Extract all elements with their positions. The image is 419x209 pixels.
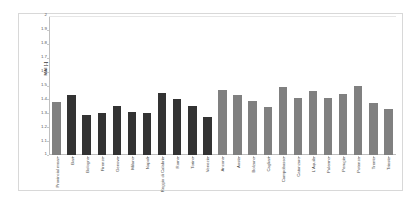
x-axis-tick-label: Napoli: [145, 157, 150, 169]
x-axis-label-slot: Firenze: [94, 157, 109, 205]
x-axis-label-slot: Perugia: [336, 157, 351, 205]
bar-slot: [170, 16, 185, 155]
x-axis-tick-label: Bolzano: [250, 157, 255, 173]
bar[interactable]: [339, 94, 347, 155]
x-axis-label-slot: Cagliari: [260, 157, 275, 205]
y-axis-tick-label: 1.5: [41, 82, 47, 87]
bar[interactable]: [158, 93, 166, 155]
bar-slot: [94, 16, 109, 155]
bar-slot: [79, 16, 94, 155]
bar[interactable]: [248, 101, 256, 155]
x-axis-label-slot: Torino: [185, 157, 200, 205]
y-axis-tick-label: 2: [45, 12, 47, 17]
bar[interactable]: [324, 98, 332, 155]
bar[interactable]: [52, 102, 60, 156]
plot-area: 21.91.81.71.61.51.41.31.21.11: [49, 16, 396, 155]
x-axis-label-slot: Milano: [124, 157, 139, 205]
bar-slot: [336, 16, 351, 155]
y-axis-tick-label: 1.8: [41, 40, 47, 45]
x-axis-tick-label: Reggio di Calabria: [160, 157, 165, 203]
bar-slot: [245, 16, 260, 155]
bar[interactable]: [143, 113, 151, 155]
x-axis-label-slot: Reggio di Calabria: [155, 157, 170, 205]
x-axis-label-slot: Roma: [170, 157, 185, 205]
x-axis-label-slot: Bologna: [79, 157, 94, 205]
bar[interactable]: [384, 109, 392, 155]
x-axis-tick-label: Venezia: [205, 157, 210, 172]
x-axis-tick-label: Ancona: [220, 157, 225, 172]
x-axis-tick-label: Potenza: [356, 157, 361, 173]
x-axis-labels: Provincial meanBariBolognaFirenzeGenovaM…: [49, 157, 396, 205]
y-axis-tick-label: 1.6: [41, 68, 47, 73]
y-axis-tick-label: 1.3: [41, 110, 47, 115]
bar-slot: [215, 16, 230, 155]
bar[interactable]: [264, 107, 272, 155]
x-axis-tick-label: Trento: [371, 157, 376, 169]
y-axis-tick-mark: [47, 155, 49, 156]
bar[interactable]: [233, 95, 241, 155]
x-axis-tick-label: L'Aquila: [311, 157, 316, 172]
x-axis-label-slot: Napoli: [140, 157, 155, 205]
bar-slot: [185, 16, 200, 155]
x-axis-tick-label: Bari: [69, 157, 74, 165]
x-axis-label-slot: Provincial mean: [49, 157, 64, 205]
x-axis-tick-label: Catanzaro: [295, 157, 300, 177]
bar[interactable]: [294, 98, 302, 155]
bar-chart-figure: MAI [-] 21.91.81.71.61.51.41.31.21.11 Pr…: [0, 0, 419, 209]
x-axis-tick-label: Provincial mean: [54, 157, 59, 203]
bar-slot: [321, 16, 336, 155]
x-axis-tick-label: Firenze: [99, 157, 104, 171]
x-axis-tick-label: Roma: [175, 157, 180, 168]
bar[interactable]: [113, 106, 121, 155]
bar[interactable]: [279, 87, 287, 155]
x-axis-label-slot: Trieste: [381, 157, 396, 205]
x-axis-label-slot: Bolzano: [245, 157, 260, 205]
bar[interactable]: [188, 106, 196, 155]
x-axis-label-slot: Genova: [109, 157, 124, 205]
bar[interactable]: [369, 103, 377, 155]
x-axis-label-slot: Trento: [366, 157, 381, 205]
bar[interactable]: [67, 95, 75, 155]
y-axis-tick-label: 1.4: [41, 96, 47, 101]
bar-slot: [49, 16, 64, 155]
x-axis-tick-label: Campobasso: [280, 157, 285, 182]
bar-slot: [366, 16, 381, 155]
x-axis-tick-label: Trieste: [386, 157, 391, 170]
x-axis-tick-label: Bologna: [84, 157, 89, 173]
bar[interactable]: [82, 115, 90, 155]
bar-slot: [260, 16, 275, 155]
bar-slot: [230, 16, 245, 155]
bar-slot: [124, 16, 139, 155]
bar-slot: [381, 16, 396, 155]
bar[interactable]: [173, 99, 181, 155]
bar-slot: [305, 16, 320, 155]
bar-slot: [275, 16, 290, 155]
x-axis-tick-label: Perugia: [341, 157, 346, 172]
bar[interactable]: [354, 86, 362, 156]
x-axis-label-slot: Campobasso: [275, 157, 290, 205]
bar[interactable]: [203, 117, 211, 155]
plot-frame: MAI [-] 21.91.81.71.61.51.41.31.21.11 Pr…: [18, 13, 403, 191]
y-axis-tick-label: 1.9: [41, 26, 47, 31]
bar[interactable]: [218, 90, 226, 155]
bar-slot: [351, 16, 366, 155]
x-axis-label-slot: Bari: [64, 157, 79, 205]
bar[interactable]: [98, 113, 106, 155]
x-axis-label-slot: L'Aquila: [305, 157, 320, 205]
x-axis-label-slot: Catanzaro: [290, 157, 305, 205]
x-axis-tick-label: Palermo: [326, 157, 331, 173]
bar[interactable]: [309, 91, 317, 155]
bar-slot: [140, 16, 155, 155]
x-axis-label-slot: Ancona: [215, 157, 230, 205]
x-axis-tick-label: Milano: [129, 157, 134, 170]
y-axis-tick-label: 1.7: [41, 54, 47, 59]
bar-slot: [290, 16, 305, 155]
y-axis-tick-label: 1.1: [41, 138, 47, 143]
x-axis-tick-label: Torino: [190, 157, 195, 169]
x-axis-tick-label: Aosta: [235, 157, 240, 168]
x-axis-label-slot: Potenza: [351, 157, 366, 205]
bar[interactable]: [128, 112, 136, 155]
y-axis-tick-label: 1: [45, 151, 47, 156]
x-axis-label-slot: Palermo: [321, 157, 336, 205]
x-axis-label-slot: Venezia: [200, 157, 215, 205]
